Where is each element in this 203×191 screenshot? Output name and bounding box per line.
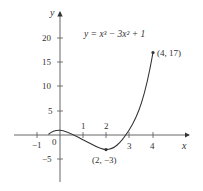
point-max-marker <box>151 51 154 54</box>
x-axis-label: x <box>181 140 187 151</box>
y-tick-label-10: 10 <box>42 81 52 91</box>
y-tick-label-5: 5 <box>48 106 53 116</box>
function-graph: y x y = x³ − 3x² + 1 (4, 17) (2, −3) −1 … <box>0 0 203 191</box>
point-min-marker <box>104 148 107 151</box>
x-tick-label-3: 3 <box>127 141 132 151</box>
x-tick-label-4: 4 <box>150 141 155 151</box>
point-min-label: (2, −3) <box>92 155 117 165</box>
y-tick-label-15: 15 <box>42 57 52 67</box>
x-tick-label-1: 1 <box>81 121 86 131</box>
x-tick-label-0: 0 <box>52 137 57 147</box>
y-tick-label-neg5: −5 <box>42 154 52 164</box>
x-tick-label-2: 2 <box>104 121 109 131</box>
y-tick-label-20: 20 <box>42 33 52 43</box>
equation-label: y = x³ − 3x² + 1 <box>83 29 145 39</box>
point-max-label: (4, 17) <box>157 48 181 58</box>
y-axis-label: y <box>49 7 55 18</box>
x-tick-label-neg1: −1 <box>32 140 42 150</box>
